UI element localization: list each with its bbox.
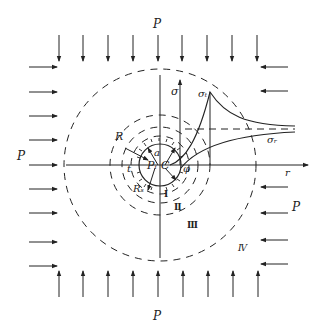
bottom-load-arrows bbox=[59, 271, 258, 297]
load-label-right: P bbox=[292, 201, 300, 213]
sigma-label: σ bbox=[171, 86, 179, 97]
zone-1-label: Ⅰ bbox=[164, 190, 168, 199]
zone-4-label: Ⅳ bbox=[238, 244, 247, 253]
phi-label: φ bbox=[183, 164, 190, 174]
zone-2-label: Ⅱ bbox=[174, 203, 182, 212]
R-label: R bbox=[115, 131, 123, 142]
C-label: C bbox=[161, 160, 169, 171]
load-label-top: P bbox=[153, 18, 161, 30]
R-pointer bbox=[125, 148, 148, 160]
Pi-label: Pᵢ bbox=[147, 160, 157, 171]
left-load-arrows bbox=[29, 67, 57, 266]
load-label-bottom: P bbox=[153, 310, 161, 322]
sigma-r-label: σᵣ bbox=[267, 135, 277, 145]
load-label-left: P bbox=[17, 150, 25, 162]
Rs-label: Rₛ bbox=[133, 184, 144, 194]
diagram-canvas: P P P P σ σₜ σᵣ r R a Pᵢ C t φ Rₛ Ⅰ Ⅱ Ⅲ … bbox=[0, 0, 323, 335]
sigma-t-label: σₜ bbox=[198, 89, 207, 99]
t-label: t bbox=[127, 164, 131, 174]
r-axis-label: r bbox=[285, 168, 290, 178]
zone-3-label: Ⅲ bbox=[187, 221, 198, 230]
a-label: a bbox=[154, 148, 160, 158]
top-load-arrows bbox=[59, 35, 257, 61]
